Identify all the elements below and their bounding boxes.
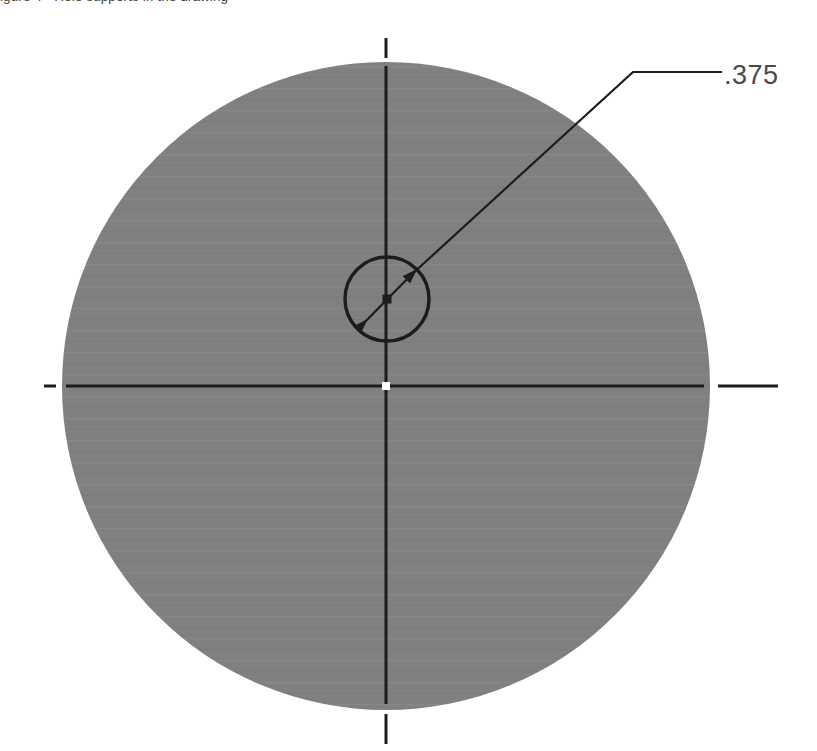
technical-drawing-svg xyxy=(0,0,817,751)
drawing-canvas: igure 4 - Hole supports in the drawing xyxy=(0,0,817,751)
part-origin-center-mark xyxy=(382,382,390,390)
hole-center-mark xyxy=(383,295,392,304)
diameter-dimension-label: .375 xyxy=(724,60,779,91)
